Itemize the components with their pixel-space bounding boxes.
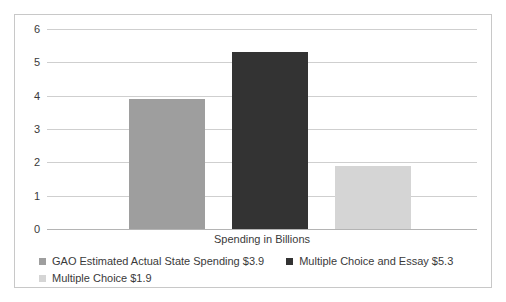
chart-legend: GAO Estimated Actual State Spending $3.9…: [39, 253, 469, 287]
legend-swatch-icon: [39, 275, 46, 282]
legend-row-1: GAO Estimated Actual State Spending $3.9…: [39, 253, 469, 270]
legend-label: Multiple Choice and Essay $5.3: [299, 256, 453, 267]
bar-gao-estimated-actual-state-spending[interactable]: [129, 99, 205, 229]
legend-item-gao-estimated-actual-state-spending[interactable]: GAO Estimated Actual State Spending $3.9: [39, 256, 264, 267]
chart-container: 6 5 4 3 2 1 0 Spending in Billions: [14, 14, 492, 288]
legend-swatch-icon: [286, 258, 293, 265]
legend-label: GAO Estimated Actual State Spending $3.9: [52, 256, 264, 267]
bar-multiple-choice[interactable]: [335, 166, 411, 229]
y-tick-label-2: 2: [34, 157, 40, 168]
legend-row-2: Multiple Choice $1.9: [39, 270, 469, 287]
legend-swatch-icon: [39, 258, 46, 265]
x-axis-baseline: 0: [47, 229, 477, 230]
y-tick-label-6: 6: [34, 24, 40, 35]
legend-label: Multiple Choice $1.9: [52, 273, 152, 284]
legend-item-multiple-choice-and-essay[interactable]: Multiple Choice and Essay $5.3: [286, 256, 453, 267]
bar-multiple-choice-and-essay[interactable]: [232, 52, 308, 229]
y-tick-label-0: 0: [34, 224, 40, 235]
x-axis-title: Spending in Billions: [47, 233, 477, 245]
y-tick-label-5: 5: [34, 57, 40, 68]
y-tick-label-1: 1: [34, 190, 40, 201]
y-tick-label-4: 4: [34, 90, 40, 101]
y-tick-label-3: 3: [34, 124, 40, 135]
legend-item-multiple-choice[interactable]: Multiple Choice $1.9: [39, 273, 152, 284]
bar-group: [47, 29, 477, 229]
plot-area: 6 5 4 3 2 1 0: [47, 29, 477, 229]
